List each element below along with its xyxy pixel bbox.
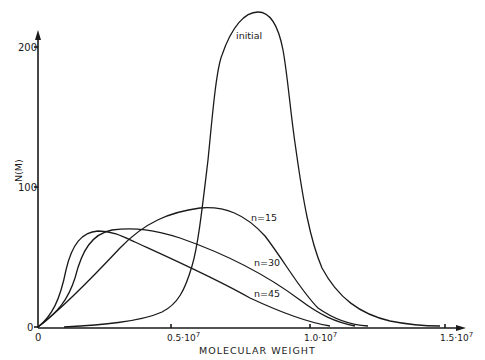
curve-n30	[38, 229, 355, 327]
y-tick-label: 200	[18, 42, 37, 53]
y-axis-arrow-icon	[35, 30, 41, 40]
x-axis-arrow-icon	[456, 325, 466, 331]
curve-label-n15: n=15	[251, 212, 277, 223]
x-tick-label: 0	[35, 332, 41, 343]
molecular-weight-distribution-chart: 200 100 0 0 0.5·107 1.0·107 1.5·107 MOLE…	[0, 0, 485, 360]
x-axis-title: MOLECULAR WEIGHT	[199, 345, 316, 356]
curve-initial	[64, 12, 440, 327]
curve-label-n45: n=45	[254, 288, 280, 299]
curve-label-initial: initial	[236, 30, 262, 41]
y-tick-label: 100	[18, 182, 37, 193]
curve-n15	[38, 208, 368, 327]
y-tick-label: 0	[27, 322, 33, 333]
x-tick-label: 1.0·107	[304, 331, 337, 343]
curve-label-n30: n=30	[254, 257, 280, 268]
x-tick-label: 1.5·107	[440, 331, 473, 343]
x-tick-label: 0.5·107	[167, 331, 200, 343]
axes	[34, 30, 466, 331]
curve-n45	[38, 231, 330, 327]
y-axis-title: N(M)	[13, 159, 24, 182]
